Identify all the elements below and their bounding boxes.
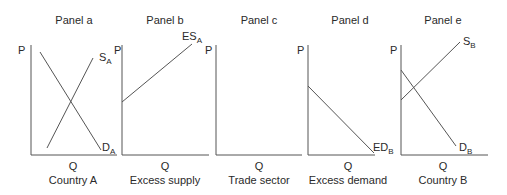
panel-d-caption: Excess demand	[309, 175, 387, 186]
panel-a-title: Panel a	[55, 15, 92, 26]
panel-c-y-label: P	[205, 45, 212, 56]
panel-c-axes	[216, 45, 302, 155]
panel-a-supply-line	[47, 58, 93, 148]
panel-d-x-label: Q	[344, 161, 353, 172]
panel-e-title: Panel e	[424, 15, 461, 26]
panel-c-x-label: Q	[255, 161, 264, 172]
panel-e-demand-line	[401, 70, 456, 146]
panel-e-demand-label: DB	[459, 142, 472, 156]
panel-b-y-label: P	[114, 45, 121, 56]
panel-b-excess-supply-label: ESA	[182, 31, 202, 45]
panel-e-supply-label: SB	[463, 36, 476, 50]
panel-d-title: Panel d	[331, 15, 368, 26]
panel-e-supply-line	[401, 42, 460, 100]
panel-a-x-label: Q	[69, 161, 78, 172]
panel-d-excess-demand-label: EDB	[373, 142, 394, 156]
panel-b-excess-supply-line	[122, 44, 192, 102]
panel-e-y-label: P	[390, 45, 397, 56]
panel-a-supply-label: SA	[99, 52, 112, 66]
panel-c-caption: Trade sector	[228, 175, 289, 186]
panel-a-caption: Country A	[49, 175, 97, 186]
panel-a-y-label: P	[18, 45, 25, 56]
panel-e-caption: Country B	[419, 175, 468, 186]
panel-b-x-label: Q	[161, 161, 170, 172]
panel-d-y-label: P	[297, 45, 304, 56]
panel-b-title: Panel b	[146, 15, 183, 26]
panel-e-x-label: Q	[439, 161, 448, 172]
panel-b-caption: Excess supply	[130, 175, 200, 186]
panel-b-axes	[122, 45, 209, 155]
panel-d-axes	[308, 45, 375, 155]
panel-e-axes	[401, 45, 488, 155]
panel-a-demand-label: DA	[102, 142, 115, 156]
panel-c-title: Panel c	[241, 15, 278, 26]
panel-d-excess-demand-line	[308, 86, 374, 153]
